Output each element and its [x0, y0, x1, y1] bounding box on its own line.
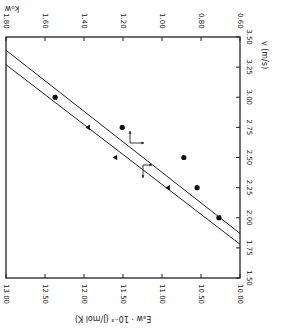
data-point-triangle — [113, 155, 118, 161]
fit-line-lower-fit — [6, 65, 240, 245]
annotation-arrow-head — [141, 142, 144, 145]
data-point-circle — [181, 155, 186, 160]
right-tick-label: 1.50 — [245, 270, 253, 286]
bottom-tick-label: 11.00 — [158, 284, 166, 304]
right-tick-label: 3.50 — [245, 29, 253, 45]
top-tick-label: 1.80 — [2, 13, 10, 29]
bottom-axis-label: Eₐw · 10⁻³ (J/mol K) — [75, 314, 152, 323]
bottom-tick-label: 13.00 — [2, 284, 10, 304]
top-tick-label: 1.20 — [119, 13, 127, 29]
right-tick-label: 3.00 — [245, 89, 253, 105]
data-point-circle — [195, 185, 200, 190]
bottom-tick-label: 10.00 — [236, 284, 244, 304]
top-axis-label: kₒw — [4, 4, 19, 13]
right-tick-label: 2.75 — [245, 120, 253, 136]
chart: 13.0012.5012.0011.5011.0010.5010.00Eₐw ·… — [0, 0, 281, 330]
right-axis-label: v (m/s) — [260, 41, 269, 69]
fit-line-upper-fit — [6, 50, 240, 233]
bottom-tick-label: 10.50 — [197, 284, 205, 304]
bottom-tick-label: 12.50 — [41, 284, 49, 304]
bottom-tick-label: 12.00 — [80, 284, 88, 304]
right-tick-label: 1.75 — [245, 240, 253, 256]
data-point-triangle — [85, 125, 90, 131]
annotation-arrow-head — [142, 175, 145, 178]
right-tick-label: 2.25 — [245, 180, 253, 196]
top-tick-label: 1.00 — [158, 13, 166, 29]
data-point-circle — [120, 125, 125, 130]
right-tick-label: 3.25 — [245, 59, 253, 75]
top-tick-label: 0.60 — [236, 13, 244, 29]
top-tick-label: 1.60 — [41, 13, 49, 29]
data-point-triangle — [165, 185, 170, 191]
top-tick-label: 1.40 — [80, 13, 88, 29]
plot-frame — [6, 37, 240, 278]
right-tick-label: 2.00 — [245, 210, 253, 226]
bottom-tick-label: 11.50 — [119, 284, 127, 304]
annotation-arrow-head — [129, 131, 132, 134]
right-tick-label: 2.50 — [245, 150, 253, 166]
top-tick-label: 0.80 — [197, 13, 205, 29]
